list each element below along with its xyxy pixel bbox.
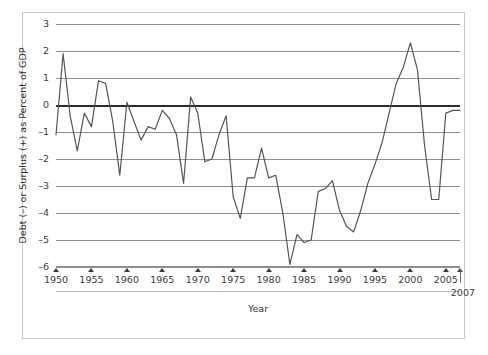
x-axis-tick-label: 1985: [292, 275, 316, 285]
y-axis-tick-label: –3: [38, 181, 49, 191]
x-axis-tick-label: 1980: [257, 275, 281, 285]
x-axis-tick-mark: [443, 268, 449, 272]
y-axis-tick-label: –1: [38, 127, 49, 137]
data-series-line: [56, 24, 460, 267]
x-axis-tick-label: 2000: [398, 275, 422, 285]
x-axis-tick-mark: [407, 268, 413, 272]
x-axis-line: [56, 266, 460, 267]
x-axis-tick-label: 1995: [363, 275, 387, 285]
y-axis-tick-label: 2: [43, 46, 49, 56]
y-axis-tick-label: –6: [38, 262, 49, 272]
x-axis-tick-mark: [88, 268, 94, 272]
chart-figure: Debt (–) or Surplus (+) as Percent of GD…: [0, 0, 488, 355]
y-axis-title: Debt (–) or Surplus (+) as Percent of GD…: [14, 24, 30, 267]
y-axis-tick-label: 1: [43, 73, 49, 83]
x-axis-tick-mark: [372, 268, 378, 272]
x-axis-tick-mark: [266, 268, 272, 272]
y-axis-tick-label: –4: [38, 208, 49, 218]
y-axis-tick-label: –2: [38, 154, 49, 164]
x-axis-tick-label: 1975: [221, 275, 245, 285]
end-year-rule: [460, 269, 461, 283]
x-axis-tick-label: 1950: [44, 275, 68, 285]
x-axis-tick-label: 1970: [186, 275, 210, 285]
x-axis-tick-label: 1960: [115, 275, 139, 285]
x-axis-tick-mark: [124, 268, 130, 272]
plot-area: 3210–1–2–3–4–5–6 19501955196019651970197…: [56, 24, 460, 267]
x-axis-tick-mark: [159, 268, 165, 272]
axis-title-divider: [56, 291, 460, 292]
x-axis-tick-label: 1965: [150, 275, 174, 285]
y-axis-tick-label: 0: [43, 100, 49, 110]
x-axis-tick-mark: [337, 268, 343, 272]
y-axis-tick-label: –5: [38, 235, 49, 245]
x-axis-tick-label: 1955: [79, 275, 103, 285]
x-axis-title: Year: [56, 303, 460, 314]
x-axis-tick-mark: [301, 268, 307, 272]
x-axis-tick-label: 2005: [434, 275, 458, 285]
gridline: [56, 267, 460, 268]
x-axis-tick-label: 1990: [327, 275, 351, 285]
x-axis-tick-mark: [195, 268, 201, 272]
y-axis-tick-label: 3: [43, 19, 49, 29]
x-axis-end-label: 2007: [451, 288, 475, 298]
x-axis-tick-mark: [230, 268, 236, 272]
x-axis-tick-mark: [53, 268, 59, 272]
